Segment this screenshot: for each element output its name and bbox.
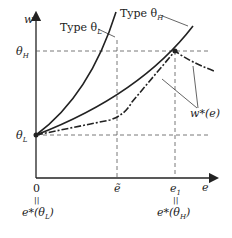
type-theta-L-label: Type θL <box>60 22 102 38</box>
e-star-theta-H: e*(θH) <box>157 207 190 223</box>
theta-L-tick: θL <box>16 130 27 146</box>
point-theta-L <box>34 133 39 138</box>
e-star-theta-L: e*(θL) <box>22 207 54 223</box>
w-star-curve <box>36 51 214 135</box>
type-theta-H-label: Type θH <box>120 8 163 24</box>
x-tick-e-tilde: ẽ <box>114 183 121 195</box>
label-pointer-w-star-2 <box>193 66 198 108</box>
label-pointer-theta-H <box>160 15 188 26</box>
x-axis-label: e <box>202 182 209 194</box>
theta-H-tick: θH <box>16 46 29 62</box>
y-axis-label: w <box>24 14 33 26</box>
label-pointer-w-star-1 <box>162 79 197 108</box>
x-tick-zero: 0 <box>33 183 40 195</box>
point-e1-theta-H <box>173 49 178 54</box>
w-star-label: w*(e) <box>190 108 220 120</box>
